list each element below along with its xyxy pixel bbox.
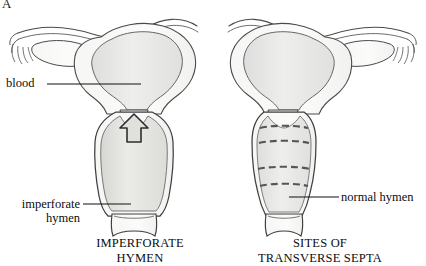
caption-imperforate-hymen: IMPERFORATE HYMEN [60,236,220,265]
vaginal-lumen-right [257,116,311,212]
callout-label-imperforate-hymen: imperforate hymen [2,198,80,225]
anatomy-illustration [0,0,426,266]
callout-label-normal-hymen: normal hymen [341,191,414,205]
canvas-background [0,0,426,266]
panel-letter: A [2,0,11,10]
figure-root: A blood imperforate hymen normal hymen I… [0,0,426,266]
caption-transverse-septa: SITES OF TRANSVERSE SEPTA [232,236,408,265]
callout-label-blood: blood [6,77,34,91]
